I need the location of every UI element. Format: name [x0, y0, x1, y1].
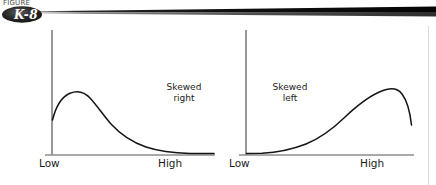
page-edge-rule — [428, 26, 429, 185]
skewed-left-annotation: Skewed left — [258, 82, 322, 104]
x-axis-tick-high: High — [360, 157, 384, 169]
skewed-right-plot — [0, 26, 228, 185]
x-axis-tick-low: Low — [39, 157, 60, 169]
skewed-left-annotation-line2: left — [258, 93, 322, 104]
x-axis-tick-low: Low — [229, 157, 250, 169]
figure-kicker-label: FIGURE — [3, 0, 30, 7]
figure-number-label: K-8 — [14, 8, 38, 22]
chart-panel-skewed-left: Skewed left Low High — [228, 26, 436, 185]
figure-container: FIGURE K-8 Skewed right Low High — [0, 0, 436, 185]
x-axis-tick-high: High — [158, 157, 182, 169]
skewed-right-annotation-line2: right — [152, 93, 216, 104]
figure-header-band: FIGURE K-8 — [0, 0, 436, 26]
chart-panel-skewed-right: Skewed right Low High — [0, 26, 228, 185]
skewed-right-annotation-line1: Skewed — [152, 82, 216, 93]
skewed-left-plot — [228, 26, 436, 185]
skewed-right-annotation: Skewed right — [152, 82, 216, 104]
figure-rule-decoration — [36, 6, 436, 18]
skewed-left-annotation-line1: Skewed — [258, 82, 322, 93]
